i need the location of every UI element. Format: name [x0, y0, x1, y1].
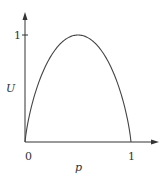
- y-axis-arrow-icon: [23, 12, 28, 20]
- x-tick-label-0: 0: [25, 151, 32, 162]
- x-axis-arrow-icon: [151, 140, 159, 145]
- y-tick-label-1: 1: [14, 30, 21, 41]
- x-tick-label-1: 1: [128, 151, 135, 162]
- x-axis-label: p: [75, 162, 82, 173]
- y-axis-label: U: [6, 83, 15, 94]
- curve-u-of-p: [25, 35, 131, 142]
